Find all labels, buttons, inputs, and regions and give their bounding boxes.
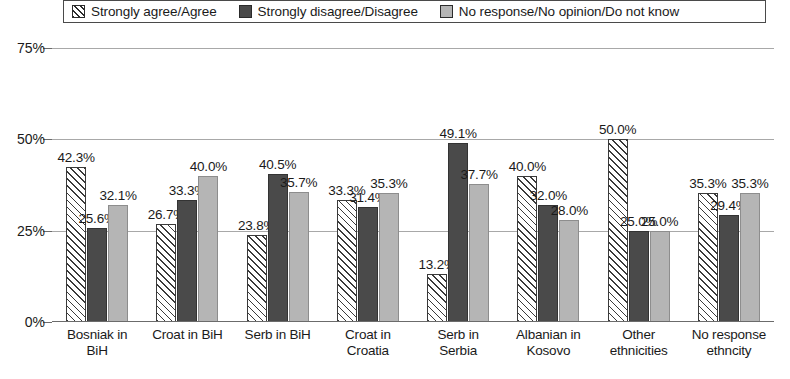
x-axis-label-line: Serb in [413, 327, 503, 343]
bar-column: 32.1% [108, 48, 128, 322]
bar-column: 23.8% [247, 48, 267, 322]
x-axis-label-line: ethncity [684, 343, 774, 359]
legend-label: No response/No opinion/Do not know [459, 4, 679, 19]
bar-column: 25.0% [650, 48, 670, 322]
bar[interactable] [66, 167, 86, 322]
bar-column: 35.3% [740, 48, 760, 322]
bar-group: 23.8%40.5%35.7% [233, 48, 323, 322]
bar-column: 35.3% [698, 48, 718, 322]
x-axis-label-line: Albanian in [503, 327, 593, 343]
y-axis-tick-label: 25% [17, 223, 45, 239]
legend-item-strongly-disagree: Strongly disagree/Disagree [239, 4, 418, 19]
bar[interactable] [156, 224, 176, 322]
bar[interactable] [740, 193, 760, 322]
bar-column: 50.0% [608, 48, 628, 322]
bar[interactable] [379, 193, 399, 322]
bar-value-label: 25.0% [641, 214, 678, 229]
bar-group-bars: 23.8%40.5%35.7% [233, 48, 323, 322]
x-axis-category-label: Serb in BiH [233, 327, 323, 359]
bar[interactable] [608, 139, 628, 322]
dark-gray-swatch-icon [239, 5, 252, 18]
x-axis-label-line: Serb in BiH [233, 327, 323, 343]
bar-column: 13.2% [427, 48, 447, 322]
bar-column: 37.7% [469, 48, 489, 322]
y-axis-tick-label: 50% [17, 131, 45, 147]
bar-column: 28.0% [559, 48, 579, 322]
bar-column: 33.3% [177, 48, 197, 322]
bar-value-label: 32.1% [99, 188, 136, 203]
x-axis-category-label: No responseethncity [684, 327, 774, 359]
x-axis-category-label: Otherethnicities [594, 327, 684, 359]
bar-group-bars: 26.7%33.3%40.0% [142, 48, 232, 322]
bar[interactable] [629, 231, 649, 322]
bar-column: 35.3% [379, 48, 399, 322]
x-axis-label-line: No response [684, 327, 774, 343]
bar-group: 42.3%25.6%32.1% [52, 48, 142, 322]
legend-label: Strongly disagree/Disagree [258, 4, 418, 19]
bar-group: 35.3%29.4%35.3% [684, 48, 774, 322]
bar[interactable] [247, 235, 267, 322]
bar-column: 33.3% [337, 48, 357, 322]
bar[interactable] [427, 274, 447, 322]
chart-plot-area: 75%50%25%0% 42.3%25.6%32.1%26.7%33.3%40.… [52, 48, 774, 322]
bar-group: 26.7%33.3%40.0% [142, 48, 232, 322]
bar-value-label: 35.3% [370, 176, 407, 191]
bar[interactable] [87, 228, 107, 322]
legend-item-no-response: No response/No opinion/Do not know [440, 4, 679, 19]
bar-group: 50.0%25.0%25.0% [594, 48, 684, 322]
bar-value-label: 40.0% [190, 159, 227, 174]
bar-column: 49.1% [448, 48, 468, 322]
bar-column: 25.0% [629, 48, 649, 322]
x-axis-label-line: Bosniak in [52, 327, 142, 343]
bar[interactable] [469, 184, 489, 322]
bar[interactable] [198, 176, 218, 322]
bar-group-bars: 40.0%32.0%28.0% [503, 48, 593, 322]
x-axis-label-line: ethnicities [594, 343, 684, 359]
hatch-swatch-icon [72, 5, 85, 18]
bar-group-bars: 50.0%25.0%25.0% [594, 48, 684, 322]
axis-baseline [52, 321, 774, 322]
bar-group: 40.0%32.0%28.0% [503, 48, 593, 322]
bar-groups: 42.3%25.6%32.1%26.7%33.3%40.0%23.8%40.5%… [52, 48, 774, 322]
bar[interactable] [559, 220, 579, 322]
light-gray-swatch-icon [440, 5, 453, 18]
bar-column: 40.0% [517, 48, 537, 322]
x-axis-label-line: BiH [52, 343, 142, 359]
x-axis-category-label: Croat in BiH [142, 327, 232, 359]
y-axis-tick-label: 0% [25, 314, 45, 330]
x-axis-label-line: Croatia [323, 343, 413, 359]
bar-column: 32.0% [538, 48, 558, 322]
bar[interactable] [358, 207, 378, 322]
legend-item-strongly-agree: Strongly agree/Agree [72, 4, 217, 19]
bar[interactable] [719, 215, 739, 322]
chart-legend: Strongly agree/Agree Strongly disagree/D… [63, 0, 766, 23]
x-axis-category-label: Bosniak inBiH [52, 327, 142, 359]
x-axis-category-label: Croat inCroatia [323, 327, 413, 359]
bar[interactable] [337, 200, 357, 322]
bar-column: 40.0% [198, 48, 218, 322]
x-axis-label-line: Serbia [413, 343, 503, 359]
x-axis-label-line: Croat in [323, 327, 413, 343]
bar-group-bars: 35.3%29.4%35.3% [684, 48, 774, 322]
x-axis-label-line: Kosovo [503, 343, 593, 359]
bar-group-bars: 13.2%49.1%37.7% [413, 48, 503, 322]
bar[interactable] [268, 174, 288, 322]
bar[interactable] [108, 205, 128, 322]
bar-column: 35.7% [289, 48, 309, 322]
bar[interactable] [650, 231, 670, 322]
bar-column: 42.3% [66, 48, 86, 322]
legend-label: Strongly agree/Agree [91, 4, 217, 19]
x-axis-label-line: Other [594, 327, 684, 343]
bar[interactable] [538, 205, 558, 322]
bar-column: 25.6% [87, 48, 107, 322]
bar-value-label: 37.7% [460, 167, 497, 182]
bar-value-label: 35.7% [280, 175, 317, 190]
y-axis-tick-label: 75% [17, 40, 45, 56]
x-axis-category-label: Serb inSerbia [413, 327, 503, 359]
bar[interactable] [177, 200, 197, 322]
bar-group: 33.3%31.4%35.3% [323, 48, 413, 322]
bar-group: 13.2%49.1%37.7% [413, 48, 503, 322]
bar-value-label: 28.0% [551, 203, 588, 218]
bar[interactable] [289, 192, 309, 322]
bar-group-bars: 33.3%31.4%35.3% [323, 48, 413, 322]
